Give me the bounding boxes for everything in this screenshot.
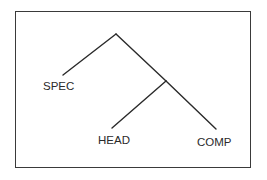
node-label-spec: SPEC (43, 81, 74, 93)
edge-intermediate-comp (166, 81, 216, 129)
edge-root-spec (63, 34, 116, 75)
edge-root-intermediate (116, 34, 166, 81)
tree-diagram (0, 0, 267, 180)
edge-intermediate-head (112, 81, 166, 128)
node-label-comp: COMP (197, 137, 232, 149)
node-label-head: HEAD (98, 135, 130, 147)
